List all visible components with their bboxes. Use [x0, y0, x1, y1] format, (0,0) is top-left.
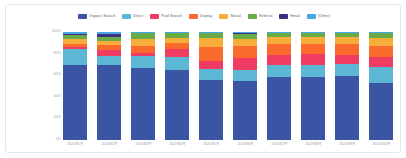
legend-item[interactable]: (Other) — [307, 14, 330, 19]
bar-segment[interactable] — [97, 56, 121, 66]
legend-swatch-icon — [248, 14, 257, 19]
x-axis-tick-label: 2020年10月 — [369, 143, 393, 147]
legend-item-label: Social — [230, 15, 240, 19]
bar-group — [63, 32, 393, 140]
legend-item[interactable]: Paid Search — [150, 14, 182, 19]
y-axis-tick-label: 40% — [54, 95, 61, 99]
legend-item[interactable]: Direct — [122, 14, 143, 19]
bar-segment[interactable] — [97, 65, 121, 140]
bar-segment[interactable] — [199, 38, 223, 46]
bar-segment[interactable] — [335, 64, 359, 76]
stacked-bar[interactable] — [97, 32, 121, 140]
stacked-bar[interactable] — [165, 32, 189, 140]
legend-item-label: (Other) — [318, 15, 330, 19]
bar-segment[interactable] — [63, 65, 87, 140]
bar-segment[interactable] — [233, 70, 257, 81]
bar-segment[interactable] — [301, 77, 325, 140]
bar-segment[interactable] — [301, 37, 325, 44]
legend-swatch-icon — [150, 14, 159, 19]
y-axis: 100%80%60%40%20%0% — [44, 32, 61, 140]
bar-segment[interactable] — [199, 61, 223, 70]
legend-item-label: Paid Search — [161, 15, 182, 19]
bar-segment[interactable] — [301, 54, 325, 65]
bar-segment[interactable] — [165, 49, 189, 57]
legend-item-label: Direct — [133, 15, 143, 19]
legend-swatch-icon — [78, 14, 87, 19]
y-axis-tick-label: 0% — [56, 138, 61, 142]
legend-swatch-icon — [122, 14, 131, 19]
x-axis-tick-label: 2020年4月 — [165, 143, 189, 147]
bar-segment[interactable] — [233, 58, 257, 70]
legend-swatch-icon — [189, 14, 198, 19]
stacked-bar[interactable] — [233, 32, 257, 140]
bar-segment[interactable] — [301, 65, 325, 77]
bar-segment[interactable] — [233, 39, 257, 46]
legend-item[interactable]: Referral — [248, 14, 273, 19]
bar-segment[interactable] — [267, 77, 291, 140]
legend-item[interactable]: Email — [279, 14, 300, 19]
bar-segment[interactable] — [131, 68, 155, 140]
y-axis-tick-label: 60% — [54, 73, 61, 77]
x-axis-tick-label: 2020年2月 — [97, 143, 121, 147]
bar-segment[interactable] — [335, 55, 359, 64]
bar-segment[interactable] — [131, 46, 155, 53]
legend-item-label: Organic Search — [89, 15, 115, 19]
x-axis: 2020年1月2020年2月2020年3月2020年4月2020年5月2020年… — [63, 143, 393, 147]
legend-item-label: Display — [200, 15, 212, 19]
y-axis-tick-label: 80% — [54, 52, 61, 56]
legend-swatch-icon — [279, 14, 288, 19]
bar-segment[interactable] — [267, 37, 291, 44]
bar-segment[interactable] — [199, 47, 223, 61]
bar-segment[interactable] — [369, 38, 393, 46]
stacked-bar[interactable] — [199, 32, 223, 140]
legend-item[interactable]: Organic Search — [78, 14, 115, 19]
bar-segment[interactable] — [335, 44, 359, 55]
stacked-bar[interactable] — [335, 32, 359, 140]
bar-segment[interactable] — [63, 49, 87, 65]
bar-segment[interactable] — [301, 44, 325, 54]
legend-item[interactable]: Display — [189, 14, 212, 19]
bar-segment[interactable] — [369, 67, 393, 83]
y-axis-tick-label: 20% — [54, 117, 61, 121]
bar-segment[interactable] — [369, 57, 393, 67]
bar-segment[interactable] — [131, 39, 155, 46]
y-axis-tick-label: 100% — [52, 30, 61, 34]
x-axis-tick-label: 2020年6月 — [233, 143, 257, 147]
bar-segment[interactable] — [267, 65, 291, 77]
bar-segment[interactable] — [335, 37, 359, 44]
bar-segment[interactable] — [165, 70, 189, 140]
x-axis-tick-label: 2020年5月 — [199, 143, 223, 147]
bar-segment[interactable] — [335, 76, 359, 140]
bar-segment[interactable] — [165, 57, 189, 69]
x-axis-tick-label: 2020年8月 — [301, 143, 325, 147]
stacked-bar[interactable] — [267, 32, 291, 140]
legend-item-label: Email — [290, 15, 300, 19]
stacked-bar[interactable] — [301, 32, 325, 140]
legend-item-label: Referral — [259, 15, 273, 19]
bar-segment[interactable] — [199, 69, 223, 80]
legend-item[interactable]: Social — [219, 14, 240, 19]
x-axis-tick-label: 2020年7月 — [267, 143, 291, 147]
bar-segment[interactable] — [369, 46, 393, 57]
bar-segment[interactable] — [131, 56, 155, 68]
stacked-bar[interactable] — [369, 32, 393, 140]
x-axis-tick-label: 2020年9月 — [335, 143, 359, 147]
chart-card: Organic SearchDirectPaid SearchDisplaySo… — [5, 4, 401, 153]
bar-segment[interactable] — [233, 81, 257, 140]
stacked-bar[interactable] — [131, 32, 155, 140]
chart-legend: Organic SearchDirectPaid SearchDisplaySo… — [6, 14, 402, 19]
bar-segment[interactable] — [233, 46, 257, 58]
bar-segment[interactable] — [267, 55, 291, 65]
stacked-bar[interactable] — [63, 32, 87, 140]
x-axis-tick-label: 2020年1月 — [63, 143, 87, 147]
plot-area — [63, 32, 393, 140]
legend-swatch-icon — [219, 14, 228, 19]
x-axis-tick-label: 2020年3月 — [131, 143, 155, 147]
bar-segment[interactable] — [267, 44, 291, 54]
bar-segment[interactable] — [199, 80, 223, 140]
bar-segment[interactable] — [369, 83, 393, 140]
legend-swatch-icon — [307, 14, 316, 19]
